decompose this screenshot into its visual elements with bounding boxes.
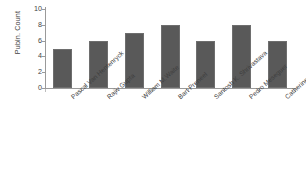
x-axis-category-label: Santosh K. Shrivastava (212, 95, 217, 101)
bar-chart-figure: Publn. Count 0246810 Pascal Van Hentenry… (0, 0, 306, 170)
x-axis-category-label: Pascal Van Hentenryck (69, 95, 74, 101)
x-axis-category-label: William M.Waite (141, 95, 146, 101)
y-axis-tick-mark (42, 72, 45, 73)
x-axis-category-label: Rajiv Gupta (105, 95, 110, 101)
y-axis-tick-mark (42, 9, 45, 10)
x-axis-category-label: Catherine C. Marshall (284, 95, 289, 101)
x-axis-tick-mark (45, 89, 46, 92)
bar (53, 49, 72, 89)
y-axis-tick-labels: 0246810 (26, 9, 42, 88)
y-axis-tick-mark (42, 41, 45, 42)
y-axis-title: Publn. Count (13, 0, 22, 69)
x-axis-category-label: Bart Preneel (176, 95, 181, 101)
y-axis-tick-mark (42, 25, 45, 26)
x-axis-category-label: Pedro Meseguer (248, 95, 253, 101)
y-axis-tick-label: 10 (34, 5, 42, 12)
y-axis-tick-mark (42, 56, 45, 57)
